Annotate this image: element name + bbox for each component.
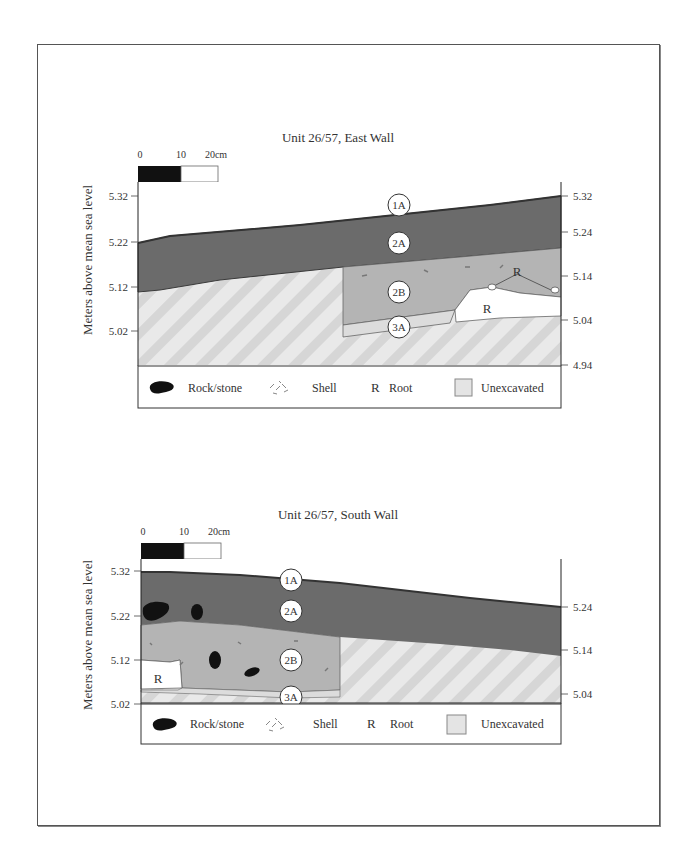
svg-text:4.94: 4.94 [573, 359, 593, 371]
south-scale-bar: 0 10 20cm [141, 526, 231, 559]
svg-text:10: 10 [179, 526, 189, 537]
svg-text:5.02: 5.02 [111, 698, 130, 710]
unexcavated-swatch [455, 379, 472, 396]
svg-text:2A: 2A [392, 237, 406, 249]
svg-text:Rock/stone: Rock/stone [188, 381, 242, 395]
svg-text:5.22: 5.22 [111, 610, 130, 622]
svg-text:1A: 1A [284, 574, 298, 586]
svg-text:20cm: 20cm [208, 526, 230, 537]
east-root-label-2: R [483, 301, 492, 316]
svg-text:Rock/stone: Rock/stone [190, 717, 244, 731]
root-symbol: R [367, 716, 376, 731]
east-y-axis-label: Meters above mean sea level [80, 185, 95, 336]
svg-text:Unexcavated: Unexcavated [481, 717, 544, 731]
south-legend: Rock/stone Shell R Root Unexcavated [141, 704, 561, 744]
svg-text:5.04: 5.04 [573, 688, 593, 700]
south-wall-profile: Unit 26/57, South Wall 0 10 20cm R [80, 507, 593, 744]
south-root-label: R [154, 671, 163, 686]
svg-text:5.32: 5.32 [573, 190, 592, 202]
east-wall-title: Unit 26/57, East Wall [282, 130, 394, 145]
svg-text:Root: Root [390, 717, 414, 731]
svg-text:Shell: Shell [313, 717, 338, 731]
east-legend: Rock/stone Shell R Root Unexcavated [138, 366, 561, 408]
svg-text:5.14: 5.14 [573, 270, 593, 282]
svg-text:5.32: 5.32 [111, 565, 130, 577]
svg-text:20cm: 20cm [205, 149, 227, 160]
svg-text:2B: 2B [393, 286, 406, 298]
svg-text:2A: 2A [284, 605, 298, 617]
svg-text:5.24: 5.24 [573, 226, 593, 238]
stratigraphy-diagram: Unit 26/57, East Wall 0 10 20cm R R [0, 0, 695, 866]
east-root-label-1: R [513, 264, 522, 279]
svg-text:Root: Root [389, 381, 413, 395]
east-scale-bar: 0 10 20cm [138, 149, 228, 182]
east-wall-profile: Unit 26/57, East Wall 0 10 20cm R R [80, 130, 593, 408]
svg-text:5.32: 5.32 [109, 190, 128, 202]
svg-text:5.14: 5.14 [573, 644, 593, 656]
svg-text:0: 0 [141, 526, 146, 537]
root-symbol: R [371, 380, 380, 395]
svg-text:5.24: 5.24 [573, 601, 593, 613]
svg-text:5.12: 5.12 [111, 654, 130, 666]
svg-text:1A: 1A [392, 199, 406, 211]
south-wall-title: Unit 26/57, South Wall [278, 507, 398, 522]
svg-text:Unexcavated: Unexcavated [481, 381, 544, 395]
svg-text:3A: 3A [392, 321, 406, 333]
svg-text:0: 0 [138, 149, 143, 160]
svg-text:Shell: Shell [312, 381, 337, 395]
svg-text:5.02: 5.02 [109, 325, 128, 337]
svg-text:5.22: 5.22 [109, 236, 128, 248]
svg-text:10: 10 [176, 149, 186, 160]
svg-text:2B: 2B [285, 654, 298, 666]
svg-text:3A: 3A [284, 691, 298, 703]
south-y-axis-label: Meters above mean sea level [80, 560, 95, 711]
unexcavated-swatch [447, 715, 466, 734]
svg-text:5.12: 5.12 [109, 281, 128, 293]
svg-text:5.04: 5.04 [573, 314, 593, 326]
